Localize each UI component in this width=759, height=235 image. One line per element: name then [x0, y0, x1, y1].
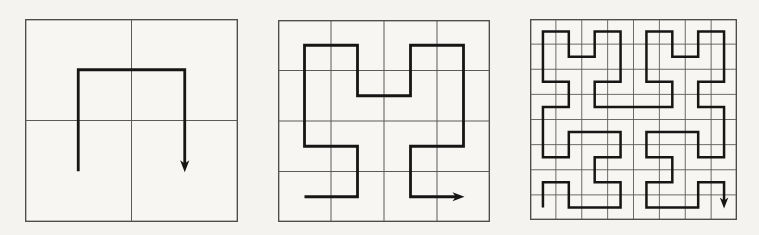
hilbert-curve-order-3-drawing	[530, 19, 737, 220]
hilbert-curve-order-2-panel	[278, 20, 490, 222]
hilbert-curves-figure	[0, 0, 759, 235]
hilbert-curve-order-1-drawing	[25, 19, 238, 222]
hilbert-curve-order-1-panel	[25, 19, 238, 222]
hilbert-curve-order-2-drawing	[278, 20, 490, 222]
hilbert-curve-order-3-panel	[530, 19, 737, 220]
